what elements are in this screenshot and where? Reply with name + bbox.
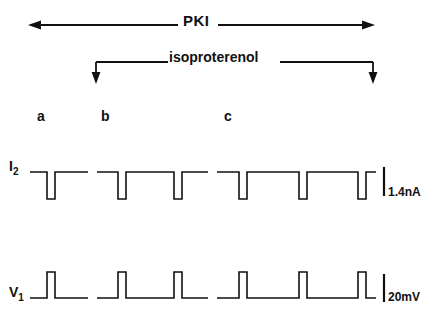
electrophysiology-figure: PKI isoproterenol a b c I2 V1 1.4nA 20mV [0, 0, 435, 323]
scale-bar-label-voltage: 20mV [388, 291, 420, 303]
epoch-marker-b: b [101, 109, 110, 123]
trace-label-v1: V1 [9, 285, 24, 303]
trace-label-v1-base: V [9, 284, 18, 300]
pki-arrowhead-right [362, 20, 375, 29]
trace-v1-segment-3 [217, 272, 376, 298]
pki-label: PKI [183, 13, 209, 28]
pki-arrowhead-left [28, 20, 41, 29]
trace-i2-segment-3 [217, 172, 376, 199]
trace-i2-segment-1 [30, 172, 88, 199]
isoproterenol-label: isoproterenol [169, 50, 258, 64]
trace-label-i2: I2 [9, 159, 18, 177]
trace-v1-segment-2 [97, 272, 208, 298]
iso-arrowhead-left [92, 72, 101, 84]
current-trace-i2 [30, 172, 376, 199]
iso-arrowhead-right [369, 72, 378, 84]
voltage-trace-v1 [30, 272, 376, 298]
isoproterenol-treatment-bar [92, 62, 378, 84]
trace-label-i2-subscript: 2 [13, 166, 19, 177]
scale-bar-label-current: 1.4nA [388, 186, 421, 198]
trace-i2-segment-2 [97, 172, 208, 199]
epoch-marker-c: c [224, 109, 232, 123]
trace-v1-segment-1 [30, 272, 88, 298]
trace-label-v1-subscript: 1 [18, 292, 24, 303]
epoch-marker-a: a [37, 109, 45, 123]
